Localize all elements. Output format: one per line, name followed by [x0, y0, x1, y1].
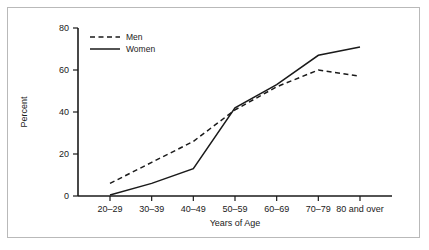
x-category-label: 70–79 [306, 204, 331, 214]
x-category-label: 50–59 [222, 204, 247, 214]
y-tick-label: 40 [59, 107, 69, 117]
y-tick-label: 60 [59, 65, 69, 75]
legend-label-men: Men [126, 32, 143, 42]
x-category-label: 20–29 [97, 204, 122, 214]
x-axis-category-labels: 20–2930–3940–4950–5960–6970–7980 and ove… [97, 204, 383, 214]
y-axis-ticks: 020406080 [59, 23, 78, 201]
x-category-label: 30–39 [139, 204, 164, 214]
y-axis-title: Percent [19, 96, 29, 128]
line-chart: 020406080 20–2930–3940–4950–5960–6970–79… [0, 0, 429, 250]
y-tick-label: 20 [59, 149, 69, 159]
legend-label-women: Women [126, 44, 155, 54]
legend: Men Women [90, 32, 155, 54]
series-line-women [110, 47, 360, 195]
x-category-label: 80 and over [336, 204, 384, 214]
x-category-label: 40–49 [181, 204, 206, 214]
x-axis-title: Years of Age [210, 218, 261, 228]
series-line-men [110, 70, 360, 183]
x-category-label: 60–69 [264, 204, 289, 214]
y-tick-label: 80 [59, 23, 69, 33]
y-tick-label: 0 [64, 191, 69, 201]
